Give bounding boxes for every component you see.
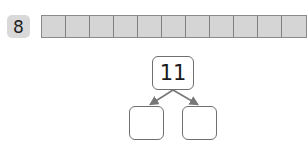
bond-part-left-input[interactable] <box>129 106 164 140</box>
bond-whole-box: 11 <box>152 56 194 90</box>
arrow-left-icon <box>151 90 173 104</box>
arrow-right-icon <box>173 90 197 104</box>
bond-part-right-input[interactable] <box>182 106 217 140</box>
